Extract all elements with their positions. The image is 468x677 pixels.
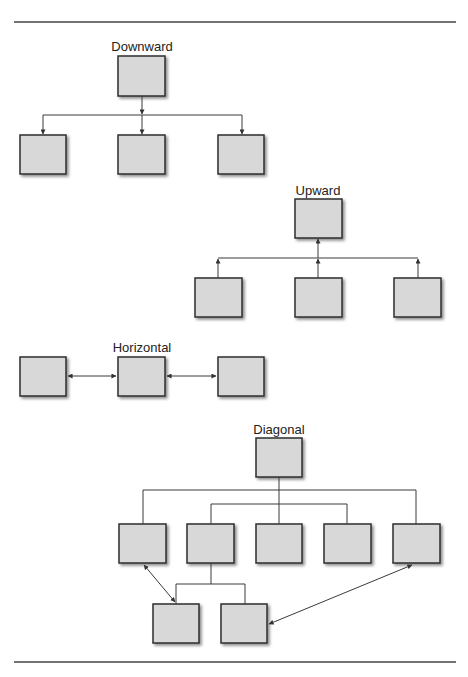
downward-child-box-3 bbox=[218, 135, 264, 174]
diagonal-sub-bus bbox=[176, 584, 245, 604]
downward-top-box bbox=[118, 56, 165, 96]
diagonal-row-box-2 bbox=[187, 524, 234, 563]
upward-child-box-2 bbox=[295, 278, 342, 317]
diagonal-cross-arrow-right bbox=[269, 565, 412, 624]
label-upward: Upward bbox=[296, 183, 341, 198]
diagonal-row-box-4 bbox=[324, 524, 371, 563]
label-downward: Downward bbox=[111, 39, 172, 54]
horizontal-box-2 bbox=[118, 357, 165, 396]
diagonal-top-box bbox=[256, 438, 302, 477]
diagonal-row-box-5 bbox=[393, 524, 440, 563]
diagonal-sub-box-1 bbox=[153, 604, 199, 643]
diagonal-row-box-1 bbox=[119, 524, 166, 563]
label-diagonal: Diagonal bbox=[253, 422, 304, 437]
communication-diagram: Downward Upward Horizontal Diagonal bbox=[0, 0, 468, 677]
upward-child-box-3 bbox=[394, 278, 441, 317]
downward-child-box-2 bbox=[118, 135, 165, 174]
upward-child-box-1 bbox=[195, 278, 242, 317]
diagonal-row-box-3 bbox=[256, 524, 302, 563]
downward-child-box-1 bbox=[20, 135, 66, 174]
diagonal-sub-box-2 bbox=[221, 604, 267, 643]
horizontal-box-1 bbox=[20, 357, 66, 396]
upward-top-box bbox=[295, 199, 342, 238]
diagonal-cross-arrow-left bbox=[144, 565, 175, 602]
horizontal-box-3 bbox=[218, 357, 264, 396]
label-horizontal: Horizontal bbox=[113, 340, 172, 355]
